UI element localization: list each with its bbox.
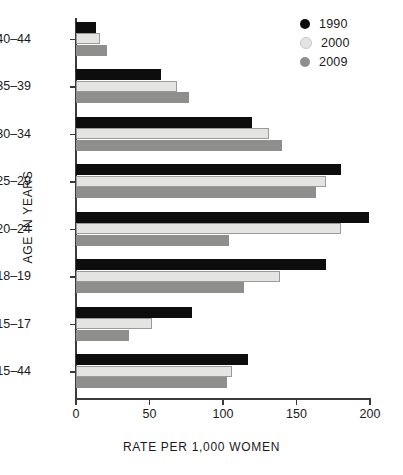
x-tick <box>149 398 150 405</box>
bar-2000-18-19 <box>76 271 280 282</box>
bar-1990-20-24 <box>76 212 369 223</box>
y-tick <box>70 181 76 182</box>
bar-1990-30-34 <box>76 117 252 128</box>
y-tick <box>70 371 76 372</box>
bar-2009-15-17 <box>76 330 129 341</box>
bar-2000-25-29 <box>76 176 326 187</box>
x-tick-label: 100 <box>213 407 234 421</box>
y-tick <box>70 276 76 277</box>
x-tick <box>75 398 76 405</box>
bar-1990-18-19 <box>76 259 326 270</box>
bar-1990-15-17 <box>76 307 192 318</box>
bar-1990-40-44 <box>76 22 96 33</box>
y-tick <box>70 134 76 135</box>
bar-2000-40-44 <box>76 33 100 44</box>
y-tick-label: 35–39 <box>0 79 31 93</box>
y-tick <box>70 86 76 87</box>
y-tick <box>70 324 76 325</box>
y-tick-label: 15–17 <box>0 317 31 331</box>
y-axis-title: AGE IN YEARS <box>21 171 35 264</box>
x-tick-label: 50 <box>143 407 157 421</box>
y-tick <box>70 39 76 40</box>
bar-1990-25-29 <box>76 164 341 175</box>
x-tick <box>369 398 370 405</box>
bar-2000-15-17 <box>76 318 152 329</box>
bar-2000-35-39 <box>76 81 177 92</box>
bar-1990-15-44 <box>76 354 248 365</box>
bar-2009-40-44 <box>76 45 107 56</box>
y-tick <box>70 229 76 230</box>
x-tick <box>296 398 297 405</box>
bar-2009-18-19 <box>76 282 244 293</box>
bar-2000-15-44 <box>76 366 232 377</box>
y-tick-label: 18–19 <box>0 269 31 283</box>
bar-2009-35-39 <box>76 92 189 103</box>
x-tick-label: 150 <box>286 407 307 421</box>
bar-2000-20-24 <box>76 223 341 234</box>
bar-2009-20-24 <box>76 235 229 246</box>
y-tick-label: 15–44 <box>0 364 31 378</box>
x-tick-label: 0 <box>73 407 80 421</box>
chart-container: 1990 2000 2009 05010015020040–4435–3930–… <box>0 0 403 475</box>
bar-2009-15-44 <box>76 377 227 388</box>
x-tick-label: 200 <box>360 407 381 421</box>
y-tick-label: 40–44 <box>0 32 31 46</box>
y-tick-label: 30–34 <box>0 127 31 141</box>
x-axis-title: RATE PER 1,000 WOMEN <box>0 440 403 454</box>
bar-2009-25-29 <box>76 187 316 198</box>
plot-area: 05010015020040–4435–3930–3425–2920–2418–… <box>76 18 370 398</box>
bar-1990-35-39 <box>76 69 161 80</box>
x-tick <box>222 398 223 405</box>
bar-2000-30-34 <box>76 128 269 139</box>
bar-2009-30-34 <box>76 140 282 151</box>
